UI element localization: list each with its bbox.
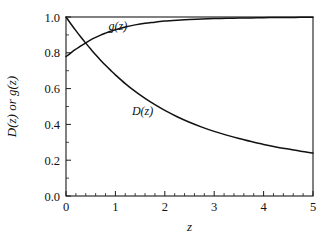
growth-factor-plot: 012345 0.00.20.40.60.81.0 g(z)D(z) z D(z… — [0, 0, 334, 237]
x-tick-label: 3 — [211, 200, 217, 214]
y-axis-label: D(z) or g(z) — [4, 76, 19, 138]
chart-figure: 012345 0.00.20.40.60.81.0 g(z)D(z) z D(z… — [0, 0, 334, 237]
annotation-dz: D(z) — [131, 104, 153, 118]
x-tick-label: 0 — [63, 200, 69, 214]
y-tick-label: 0.6 — [44, 82, 60, 96]
x-axis-label: z — [186, 219, 192, 234]
x-tick-label: 4 — [260, 200, 267, 214]
y-tick-label: 0.4 — [44, 118, 60, 132]
y-tick-label: 0.2 — [44, 154, 60, 168]
x-tick-label: 5 — [310, 200, 316, 214]
annotation-gz: g(z) — [109, 19, 128, 33]
x-tick-label: 1 — [112, 200, 118, 214]
y-tick-label: 0.8 — [44, 46, 60, 60]
y-tick-label: 0.0 — [44, 190, 60, 204]
x-tick-label: 2 — [162, 200, 168, 214]
y-tick-label: 1.0 — [44, 11, 60, 25]
